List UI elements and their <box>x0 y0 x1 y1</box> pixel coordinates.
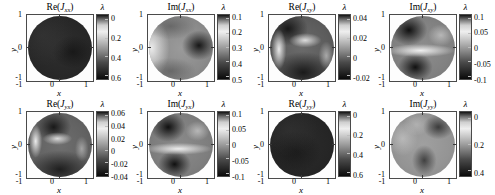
aperture-heatmap <box>270 16 334 80</box>
colorbar-tick <box>347 19 350 20</box>
colorbar: λ0.10.050-0.05-0.1 <box>459 14 495 84</box>
heatmap-layer <box>391 16 455 80</box>
colorbar-tick <box>226 76 229 77</box>
colorbar-tick <box>105 162 108 163</box>
panel-title-subscript: xx <box>65 6 71 13</box>
y-tick-label: -1 <box>250 171 264 179</box>
y-tick-label: 1 <box>8 108 22 116</box>
colorbar-tick <box>226 18 229 19</box>
panel-imjyx: Im(Jyx)-10110-1xyλ0.10.050-0.05-0.1 <box>121 97 242 194</box>
aperture-heatmap <box>149 113 213 177</box>
heatmap-layer <box>149 113 213 177</box>
x-axis-label: x <box>147 185 213 195</box>
colorbar-tick <box>105 115 108 116</box>
panel-title: Re(Jxx) <box>26 1 94 14</box>
panel-imjxx: Im(Jxx)-10110-1xyλ0.10.20.30.40.5 <box>121 0 242 97</box>
heatmap-layer <box>270 16 334 80</box>
colorbar-tick-label: 0.3 <box>232 45 242 53</box>
colorbar-tick-label: 0.4 <box>474 170 484 178</box>
panel-title-symbol: J <box>60 99 64 109</box>
aperture-heatmap <box>270 113 334 177</box>
colorbar-gradient <box>459 14 472 80</box>
axis-tick-y <box>390 144 393 145</box>
axis-tick-x <box>301 15 302 18</box>
colorbar-tick-label: 0.4 <box>111 55 121 63</box>
panel-title: Re(Jxy) <box>268 1 336 14</box>
colorbar-gradient <box>217 111 230 177</box>
colorbar-tick <box>347 56 350 57</box>
colorbar-gradient <box>338 14 351 80</box>
colorbar-tick <box>468 47 471 48</box>
y-tick-label: -1 <box>250 74 264 82</box>
colorbar-label: λ <box>338 99 351 109</box>
colorbar-tick <box>468 61 471 62</box>
panel-title-function: Im <box>168 99 179 109</box>
panel-rejxx: Re(Jxx)-10110-1xyλ00.20.40.6 <box>0 0 121 97</box>
colorbar-tick-label: 0.6 <box>111 75 121 83</box>
panel-title-function: Im <box>410 99 421 109</box>
colorbar-tick-label: 0.2 <box>353 132 363 140</box>
y-tick-label: -1 <box>371 171 385 179</box>
colorbar-tick <box>226 173 229 174</box>
colorbar-tick-label: 0.1 <box>232 14 242 22</box>
axis-tick-y <box>27 47 30 48</box>
y-tick-label: 1 <box>129 108 143 116</box>
axis-tick-x <box>422 175 423 178</box>
colorbar-tick <box>105 173 108 174</box>
axis-tick-y <box>27 144 30 145</box>
panel-row-top: Re(Jxx)-10110-1xyλ00.20.40.6Im(Jxx)-1011… <box>0 0 485 97</box>
colorbar-tick-label: 0 <box>353 55 357 63</box>
axis-tick-y <box>269 144 272 145</box>
colorbar-gradient <box>459 111 472 177</box>
colorbar-gradient <box>96 14 109 80</box>
colorbar-tick <box>347 116 350 117</box>
colorbar-tick <box>468 170 471 171</box>
colorbar-tick-label: 0 <box>232 142 236 150</box>
colorbar-tick <box>105 19 108 20</box>
colorbar-tick <box>347 172 350 173</box>
panel-title-function: Re <box>289 99 300 109</box>
axis-tick-y <box>332 47 335 48</box>
axis-tick-y <box>332 144 335 145</box>
y-tick-label: -1 <box>8 74 22 82</box>
plot-axes <box>26 14 94 82</box>
y-tick-label: 1 <box>250 108 264 116</box>
panel-title-function: Re <box>289 2 300 12</box>
aperture-heatmap <box>28 113 92 177</box>
y-tick-label: 1 <box>8 11 22 19</box>
plot-axes <box>26 111 94 179</box>
colorbar-tick <box>105 138 108 139</box>
panel-title-function: Re <box>47 2 58 12</box>
y-axis-label: y <box>250 145 260 149</box>
colorbar-tick-label: 0 <box>474 45 478 53</box>
panel-title-symbol: J <box>423 2 427 12</box>
colorbar-label: λ <box>459 2 472 12</box>
colorbar-tick <box>468 18 471 19</box>
panel-title: Im(Jxy) <box>389 1 457 14</box>
axis-tick-x <box>59 78 60 81</box>
panel-title-subscript: yx <box>186 103 192 110</box>
panel-title-symbol: J <box>181 2 185 12</box>
axis-tick-x <box>180 78 181 81</box>
panel-rejyy: Re(Jyy)-10110-1xyλ00.20.40.6 <box>242 97 363 194</box>
panel-title-symbol: J <box>423 99 427 109</box>
colorbar-tick <box>468 76 471 77</box>
colorbar-tick <box>105 56 108 57</box>
axis-tick-y <box>211 47 214 48</box>
axis-tick-y <box>211 144 214 145</box>
colorbar-tick-label: 0.1 <box>232 111 242 119</box>
colorbar-tick-label: 0.4 <box>353 152 363 160</box>
colorbar: λ00.20.4 <box>459 111 495 181</box>
colorbar-gradient <box>338 111 351 177</box>
plot-axes <box>389 111 457 179</box>
y-tick-label: 1 <box>371 108 385 116</box>
colorbar-tick <box>105 150 108 151</box>
aperture-heatmap <box>149 16 213 80</box>
colorbar-tick-label: 0.2 <box>474 142 484 150</box>
colorbar-label: λ <box>217 2 230 12</box>
axis-tick-x <box>422 112 423 115</box>
heatmap-layer <box>28 16 92 80</box>
axis-tick-x <box>59 15 60 18</box>
colorbar-gradient <box>217 14 230 80</box>
